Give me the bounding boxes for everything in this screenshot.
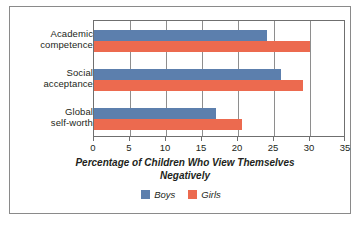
x-axis-title-line-0: Percentage of Children Who View Themselv… [40,157,330,170]
category-label-1: Socialacceptance [10,67,93,90]
chart-legend: BoysGirls [10,189,352,200]
legend-swatch-girls [188,190,197,199]
tick-label-20: 20 [222,142,252,153]
category-label-line: acceptance [10,78,93,90]
tick-mark-10 [165,137,166,141]
category-label-line: Social [10,67,93,79]
tick-label-10: 10 [150,142,180,153]
tick-label-25: 25 [258,142,288,153]
category-label-line: competence [10,39,93,51]
tick-label-5: 5 [114,142,144,153]
chart-figure-frame: AcademiccompetenceSocialacceptanceGlobal… [9,6,351,214]
category-label-line: Global [10,106,93,118]
legend-label-girls: Girls [201,189,221,200]
tick-mark-5 [129,137,130,141]
legend-swatch-boys [141,190,150,199]
category-label-line: self-worth [10,117,93,129]
tick-label-30: 30 [294,142,324,153]
category-label-line: Academic [10,28,93,40]
bar-boys-1 [94,69,281,80]
x-axis-title-line-1: Negatively [40,170,330,183]
bar-boys-0 [94,30,267,41]
tick-mark-0 [93,137,94,141]
bar-girls-0 [94,41,310,52]
bar-girls-1 [94,80,303,91]
category-label-2: Globalself-worth [10,106,93,129]
tick-mark-30 [309,137,310,141]
category-axis-labels: AcademiccompetenceSocialacceptanceGlobal… [10,20,93,137]
legend-entry-boys: Boys [141,189,175,200]
tick-mark-15 [201,137,202,141]
legend-label-boys: Boys [154,189,175,200]
x-axis-title: Percentage of Children Who View Themselv… [40,157,330,182]
bar-boys-2 [94,108,216,119]
gridline-30 [310,21,311,136]
tick-mark-35 [344,137,345,141]
legend-entry-girls: Girls [188,189,221,200]
tick-label-0: 0 [78,142,108,153]
category-label-0: Academiccompetence [10,28,93,51]
value-axis: 05101520253035 [93,137,345,157]
tick-label-35: 35 [330,142,360,153]
bar-girls-2 [94,119,242,130]
tick-label-15: 15 [186,142,216,153]
tick-mark-25 [273,137,274,141]
chart-plot-area [93,20,345,137]
tick-mark-20 [237,137,238,141]
